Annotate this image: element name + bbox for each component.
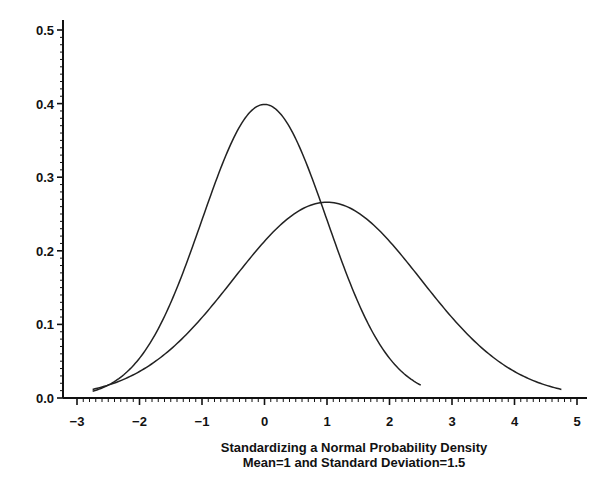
tick-labels: 0.00.10.20.30.40.5−3−2−1012345 [36,23,581,429]
x-tick-label: 2 [386,414,393,429]
x-tick-label: −3 [70,414,85,429]
axes [63,20,587,398]
y-tick-label: 0.2 [36,244,54,259]
x-tick-label: 4 [511,414,519,429]
x-tick-label: 3 [448,414,455,429]
y-tick-label: 0.0 [36,391,54,406]
y-tick-label: 0.1 [36,317,54,332]
x-tick-label: −1 [195,414,210,429]
y-tick-label: 0.5 [36,23,54,38]
x-axis-caption-line1: Standardizing a Normal Probability Densi… [46,440,616,455]
standard-normal-curve [93,104,421,391]
x-axis-caption-line2: Mean=1 and Standard Deviation=1.5 [46,455,616,470]
ticks [57,30,577,405]
density-curves [93,104,562,391]
y-tick-label: 0.3 [36,170,54,185]
x-tick-label: 5 [573,414,580,429]
normal-density-chart: 0.00.10.20.30.40.5−3−2−1012345 [0,0,616,495]
x-tick-label: 0 [261,414,268,429]
mean1-sd1.5-curve [93,202,562,389]
x-tick-label: −2 [132,414,147,429]
x-tick-label: 1 [323,414,330,429]
y-tick-label: 0.4 [36,97,55,112]
